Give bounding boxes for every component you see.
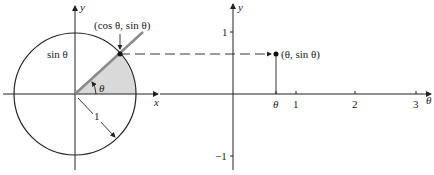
x-tick-1: 1 [293,98,299,110]
theta-axis-label: θ [426,94,432,106]
y-tick-1: 1 [222,26,228,38]
angle-label: θ [99,82,105,94]
sine-point [274,52,279,57]
y-axis-label: y [79,1,85,13]
sin-label: sin θ [47,48,68,60]
sine-plot: y (θ, sin θ) 1 −1 θ 1 2 3 θ [160,1,432,170]
x-tick-3: 3 [413,98,419,110]
sine-point-label: (θ, sin θ) [281,48,320,61]
sine-unit-circle-diagram: y x (cos θ, sin θ) sin θ θ 1 y (θ, sin θ… [0,0,434,175]
angle-sector [75,53,135,94]
x-axis-label: x [153,96,159,108]
x-tick-theta: θ [273,98,279,110]
unit-circle-diagram: y x (cos θ, sin θ) sin θ θ 1 [3,1,159,170]
radius-label: 1 [94,110,100,122]
y-tick-neg1: −1 [215,150,227,162]
y-axis-label-right: y [237,1,243,13]
point-label: (cos θ, sin θ) [94,19,151,32]
x-tick-2: 2 [352,98,358,110]
